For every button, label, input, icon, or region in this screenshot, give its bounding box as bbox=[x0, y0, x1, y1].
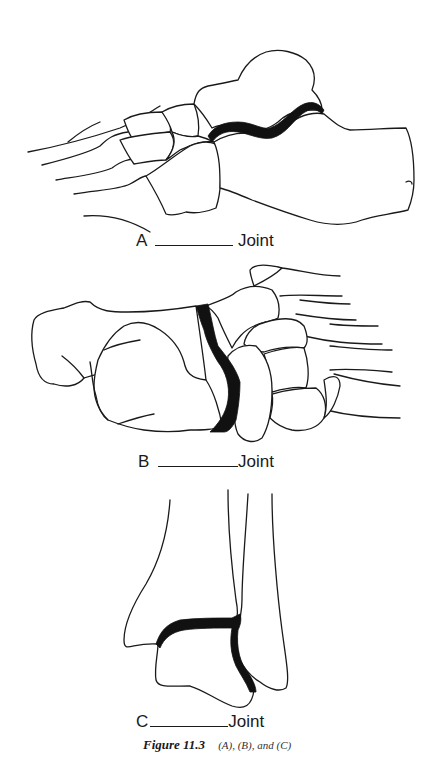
panel-b-toe-line-3b bbox=[330, 324, 378, 326]
panel-b-answer-blank[interactable] bbox=[158, 452, 238, 467]
panel-b-drawing bbox=[32, 265, 400, 441]
panel-c-fibula-inner bbox=[240, 494, 248, 620]
panel-a-drawing bbox=[28, 50, 414, 232]
panel-c-fibula-outer bbox=[240, 494, 288, 690]
panel-c-letter: C bbox=[136, 712, 148, 731]
panel-c-tibia-outline bbox=[124, 500, 170, 647]
panel-b-metatarsal-top bbox=[250, 265, 282, 286]
panel-a-toe-line-5 bbox=[84, 216, 150, 232]
panel-c-label: CJoint bbox=[136, 712, 264, 732]
panel-b-letter: B bbox=[138, 452, 149, 471]
panel-a-toe-line-4 bbox=[74, 176, 146, 194]
panel-b-toe-line-6 bbox=[326, 410, 400, 418]
panel-b-toe-line-4b bbox=[330, 346, 392, 350]
panel-c-drawing bbox=[124, 490, 288, 707]
panel-b-joint-word: Joint bbox=[238, 452, 274, 471]
panel-b-toe-line-4 bbox=[304, 336, 382, 344]
panel-a-joint-word: Joint bbox=[238, 231, 274, 250]
panel-a-letter: A bbox=[136, 231, 146, 250]
panel-a-cuneiform-2 bbox=[120, 132, 173, 164]
panel-b-toe-line-2 bbox=[280, 295, 342, 296]
panel-b-toe-line-2b bbox=[300, 300, 350, 304]
panel-a-label: A Joint bbox=[136, 231, 274, 251]
panel-c-joint-word: Joint bbox=[228, 712, 264, 731]
panel-b-toe-line-5b bbox=[334, 374, 400, 386]
panel-b-cuneiform-4 bbox=[270, 388, 326, 431]
figure-caption: Figure 11.3 (A), (B), and (C) bbox=[143, 737, 291, 753]
panel-b-toe-line-5 bbox=[330, 369, 392, 372]
panel-b-toe-line-3 bbox=[296, 314, 356, 320]
panel-b-label: B Joint bbox=[138, 452, 274, 472]
panel-c-tibia-lateral bbox=[228, 490, 238, 620]
panel-c-answer-blank[interactable] bbox=[150, 712, 228, 727]
panel-a-toe-line-2 bbox=[42, 132, 128, 165]
figure-illustration bbox=[0, 0, 427, 776]
figure-description: (A), (B), and (C) bbox=[218, 739, 291, 751]
figure-number: Figure 11.3 bbox=[143, 737, 205, 752]
panel-a-answer-blank[interactable] bbox=[155, 231, 233, 246]
